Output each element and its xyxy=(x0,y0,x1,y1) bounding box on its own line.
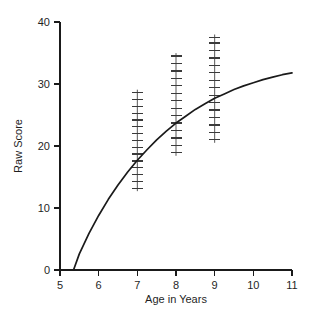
scatter-plot-canvas: 010203040 567891011 Age in Years Raw Sco… xyxy=(0,0,318,319)
y-axis-title: Raw Score xyxy=(12,119,24,173)
marker-column xyxy=(171,53,182,156)
marker-column xyxy=(209,35,220,143)
y-axis-ticks xyxy=(54,22,60,270)
chart-figure: 010203040 567891011 Age in Years Raw Sco… xyxy=(0,0,318,319)
marker-columns-group xyxy=(132,35,220,192)
x-axis-title: Age in Years xyxy=(145,293,207,305)
x-tick-label: 11 xyxy=(286,279,297,291)
marker-column xyxy=(132,90,143,191)
x-tick-label: 8 xyxy=(173,279,179,291)
x-tick-label: 9 xyxy=(212,279,218,291)
x-tick-label: 5 xyxy=(57,279,63,291)
x-axis-ticks xyxy=(60,270,292,276)
y-tick-label: 40 xyxy=(38,16,50,28)
x-tick-label: 10 xyxy=(247,279,259,291)
y-tick-label: 0 xyxy=(44,264,50,276)
x-axis-tick-labels: 567891011 xyxy=(57,279,298,291)
y-axis-tick-labels: 010203040 xyxy=(38,16,50,276)
y-tick-label: 20 xyxy=(38,140,50,152)
y-tick-label: 30 xyxy=(38,78,50,90)
x-tick-label: 7 xyxy=(134,279,140,291)
y-tick-label: 10 xyxy=(38,202,50,214)
x-tick-label: 6 xyxy=(96,279,102,291)
fitted-growth-curve xyxy=(74,73,292,270)
